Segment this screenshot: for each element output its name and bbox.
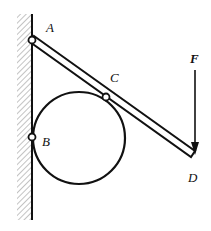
statics-diagram: A B C D F <box>0 0 211 231</box>
label-A: A <box>45 20 54 35</box>
force-F <box>191 70 199 155</box>
pin-A <box>29 37 36 44</box>
label-D: D <box>187 170 198 185</box>
pin-C <box>103 94 110 101</box>
bar-AD <box>30 36 195 157</box>
wall-hatching <box>17 14 31 220</box>
pin-B <box>29 134 36 141</box>
label-C: C <box>110 70 119 85</box>
label-F: F <box>189 51 199 66</box>
wall <box>17 14 32 220</box>
label-B: B <box>42 134 50 149</box>
bar-body <box>30 36 195 157</box>
